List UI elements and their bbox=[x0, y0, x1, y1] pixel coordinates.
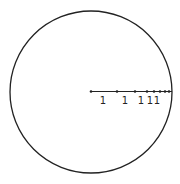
segment-label: 1 bbox=[147, 95, 153, 106]
point-marker bbox=[153, 90, 156, 93]
segment-label: 1 bbox=[100, 95, 106, 106]
circle-diagram: 11111 bbox=[0, 0, 180, 184]
segment-label: 1 bbox=[138, 95, 144, 106]
point-marker bbox=[116, 90, 119, 93]
segment-labels: 11111 bbox=[100, 95, 160, 106]
point-marker bbox=[159, 90, 162, 93]
point-marker bbox=[90, 90, 93, 93]
point-marker bbox=[134, 90, 137, 93]
point-marker bbox=[168, 90, 171, 93]
segment-label: 1 bbox=[154, 95, 160, 106]
point-marker bbox=[164, 90, 167, 93]
point-marker bbox=[146, 90, 149, 93]
segment-label: 1 bbox=[122, 95, 128, 106]
